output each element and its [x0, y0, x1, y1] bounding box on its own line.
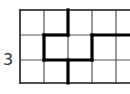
grid-diagram [0, 0, 130, 94]
